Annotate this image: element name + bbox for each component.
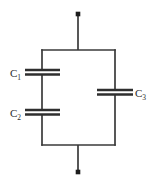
capacitor-c2-label-subscript: 2	[17, 113, 21, 122]
capacitor-c2-label-letter: C	[10, 107, 17, 119]
capacitor-c3-label-subscript: 3	[142, 93, 146, 102]
capacitor-c1-label-letter: C	[10, 67, 17, 79]
capacitor-c3-label: C3	[135, 87, 146, 102]
top-terminal-dot	[76, 12, 81, 17]
capacitor-c1-label: C1	[10, 67, 21, 82]
bottom-terminal-dot	[76, 170, 81, 175]
circuit-diagram: C1 C2 C3	[0, 0, 156, 186]
circuit-svg: C1 C2 C3	[0, 0, 156, 186]
capacitor-c3-label-letter: C	[135, 87, 142, 99]
capacitor-c1-label-subscript: 1	[17, 73, 21, 82]
capacitor-c2-label: C2	[10, 107, 21, 122]
